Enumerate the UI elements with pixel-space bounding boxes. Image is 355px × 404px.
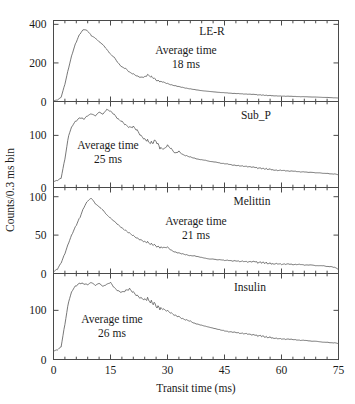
x-tick-label: 30 (162, 364, 174, 376)
y-tick-label: 100 (29, 129, 47, 141)
x-tick-label: 15 (105, 364, 117, 376)
x-axis-title: Transit time (ms) (156, 382, 236, 395)
x-tick-label: 0 (51, 364, 57, 376)
y-tick-label: 100 (29, 191, 47, 203)
panel-le-r: 0200400LE-RAverage time18 ms (29, 18, 338, 107)
average-time-value: 26 ms (98, 327, 126, 339)
panel-title: Insulin (234, 281, 266, 293)
x-tick-label: 75 (333, 364, 345, 376)
panel-sub-p: 0100Sub_PAverage time25 ms (29, 102, 338, 194)
y-tick-label: 0 (41, 354, 47, 366)
average-time-label: Average time (77, 139, 138, 152)
panel-insulin: 0100InsulinAverage time26 ms (29, 274, 338, 366)
average-time-value: 25 ms (94, 153, 122, 165)
x-tick-label: 45 (219, 364, 231, 376)
y-tick-label: 50 (35, 229, 47, 241)
figure-container: 0200400LE-RAverage time18 ms0100Sub_PAve… (0, 0, 355, 404)
y-tick-label: 100 (29, 304, 47, 316)
y-tick-label: 200 (29, 57, 47, 69)
multi-panel-transit-time-chart: 0200400LE-RAverage time18 ms0100Sub_PAve… (0, 0, 355, 404)
panel-title: Melittin (233, 195, 270, 207)
panel-melittin: 050100MelittinAverage time21 ms (29, 188, 338, 280)
average-time-value: 18 ms (172, 58, 200, 70)
average-time-label: Average time (81, 313, 142, 326)
y-tick-label: 0 (41, 96, 47, 108)
panel-title: Sub_P (241, 109, 271, 121)
panel-title: LE-R (199, 25, 225, 37)
average-time-label: Average time (165, 215, 226, 228)
y-tick-label: 400 (29, 18, 47, 30)
y-tick-label: 0 (41, 268, 47, 280)
average-time-label: Average time (155, 44, 216, 57)
y-axis-title: Counts/0.3 ms bin (4, 148, 16, 232)
average-time-value: 21 ms (182, 229, 210, 241)
x-tick-label: 60 (276, 364, 288, 376)
